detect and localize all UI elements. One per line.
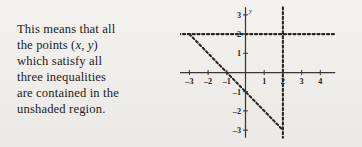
axes-group (180, 7, 335, 138)
x-tick-label-5: 3 (300, 77, 304, 86)
tick-labels-group: –3–2–11234321–1–2–3xy (180, 7, 322, 135)
paragraph-line-6: unshaded region. (17, 101, 169, 117)
paragraph-line-4: three inequalities (17, 69, 169, 85)
x-tick-label-2: –1 (222, 77, 231, 86)
paragraph-line-2: the points (x, y) (17, 37, 169, 53)
x-tick-label-0: –3 (184, 77, 193, 86)
explanatory-paragraph: This means that all the points (x, y) wh… (17, 21, 169, 118)
paragraph-line-2-post: ) (94, 38, 98, 52)
paragraph-line-1: This means that all (17, 21, 169, 37)
y-axis-name: y (248, 7, 253, 15)
paragraph-line-5: are contained in the (17, 85, 169, 101)
x-tick-label-3: 1 (262, 77, 266, 86)
cartesian-plot: –3–2–11234321–1–2–3xy (180, 0, 362, 147)
paragraph-line-3: which satisfy all (17, 53, 169, 69)
x-tick-label-1: –2 (203, 77, 212, 86)
x-tick-label-4: 2 (281, 77, 285, 86)
page-canvas: This means that all the points (x, y) wh… (0, 0, 362, 147)
y-tick-label-1: 2 (237, 30, 241, 39)
y-tick-label-2: 1 (237, 49, 241, 58)
y-tick-label-3: –1 (232, 88, 241, 97)
paragraph-line-2-pre: the points ( (17, 38, 75, 52)
y-tick-label-0: 3 (237, 11, 241, 20)
inequality-graph: –3–2–11234321–1–2–3xy (180, 0, 362, 147)
y-tick-label-4: –2 (232, 107, 241, 116)
x-tick-label-6: 4 (318, 77, 322, 86)
y-tick-label-5: –3 (232, 126, 241, 135)
paragraph-line-2-mid: , (81, 38, 88, 52)
